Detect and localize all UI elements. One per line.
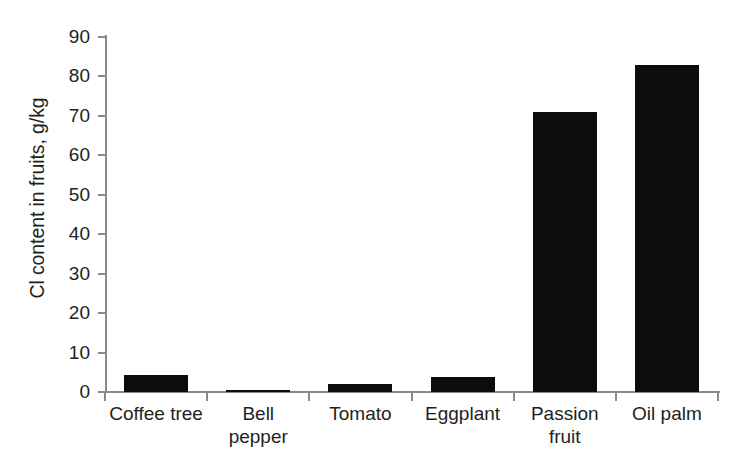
bar [533,112,597,392]
bar [328,384,392,392]
x-axis-tick [411,392,413,401]
y-axis-tick-label: 50 [10,185,90,204]
bar [431,377,495,392]
x-axis-tick [308,392,310,401]
x-axis-tick [717,392,719,401]
bar [124,375,188,392]
y-axis-tick-label: 70 [10,106,90,125]
y-axis-tick-label: 80 [10,66,90,85]
y-axis-tick-label: 10 [10,343,90,362]
bar-series [105,37,718,392]
bar [635,65,699,392]
y-axis-tick-label: 0 [10,382,90,401]
y-axis-tick-label: 40 [10,224,90,243]
bar-chart-figure: Cl content in fruits, g/kg 0102030405060… [0,0,751,473]
x-axis-category-label: Oil palm [604,402,730,425]
x-axis-tick [513,392,515,401]
y-axis-tick-label: 30 [10,264,90,283]
x-axis-tick [206,392,208,401]
bar [226,390,290,392]
y-axis-tick-label: 60 [10,145,90,164]
y-axis-tick-label: 20 [10,303,90,322]
x-axis-tick [615,392,617,401]
x-axis-tick [104,392,106,401]
y-axis-tick-label: 90 [10,27,90,46]
